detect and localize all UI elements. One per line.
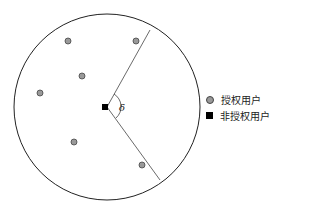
legend-label: 非授权用户: [220, 108, 270, 123]
angle-delta-label: δ: [119, 102, 125, 113]
legend-label: 授权用户: [221, 92, 261, 107]
legend-unauthorized: 非授权用户: [206, 108, 270, 123]
gray-circle-icon: [206, 96, 214, 104]
sector-line-lower: [107, 107, 160, 180]
authorized-users: [37, 38, 145, 168]
authorized-user-dot: [79, 73, 85, 79]
authorized-user-dot: [139, 162, 145, 168]
authorized-user-dot: [37, 90, 43, 96]
black-square-icon: [206, 112, 213, 119]
legend-authorized: 授权用户: [206, 92, 261, 107]
authorized-user-dot: [133, 38, 139, 44]
sector-line-upper: [107, 30, 150, 107]
authorized-user-dot: [71, 139, 77, 145]
authorized-user-dot: [65, 38, 71, 44]
unauthorized-user-marker: [102, 104, 108, 110]
